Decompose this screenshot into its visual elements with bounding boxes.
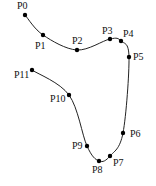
spline-diagram: P0P1P2P3P4P5P6P7P8P9P10P11	[0, 0, 156, 186]
diagram-canvas: P0P1P2P3P4P5P6P7P8P9P10P11	[0, 0, 156, 186]
point-label: P10	[50, 93, 66, 104]
point-label: P6	[130, 128, 141, 139]
point-label: P7	[113, 157, 124, 168]
control-point	[108, 37, 112, 41]
control-point	[85, 144, 89, 148]
control-point	[75, 48, 79, 52]
control-point	[41, 33, 45, 37]
control-point	[108, 154, 112, 158]
point-label: P9	[72, 140, 83, 151]
control-point	[127, 55, 131, 59]
point-label: P4	[123, 28, 134, 39]
point-label: P8	[92, 164, 103, 175]
control-point	[119, 39, 123, 43]
point-label: P3	[102, 25, 113, 36]
control-point	[30, 68, 34, 72]
control-point	[23, 13, 27, 17]
point-label: P0	[17, 0, 28, 11]
point-label: P5	[133, 51, 144, 62]
point-label: P11	[14, 69, 29, 80]
control-point	[67, 93, 71, 97]
control-point	[97, 159, 101, 163]
point-label: P2	[72, 35, 83, 46]
control-point	[121, 131, 125, 135]
point-label: P1	[35, 40, 46, 51]
